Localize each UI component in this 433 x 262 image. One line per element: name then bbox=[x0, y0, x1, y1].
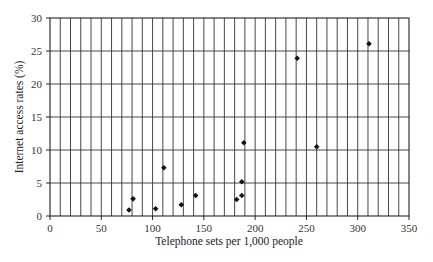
x-tick-label: 100 bbox=[144, 222, 161, 234]
y-tick-label: 10 bbox=[31, 144, 43, 156]
x-tick-label: 350 bbox=[401, 222, 418, 234]
data-point-marker bbox=[130, 196, 136, 202]
x-tick-label: 0 bbox=[47, 222, 53, 234]
grid-lines bbox=[50, 18, 409, 216]
data-point-marker bbox=[239, 193, 245, 199]
y-tick-label: 5 bbox=[37, 177, 43, 189]
x-tick-label: 150 bbox=[196, 222, 213, 234]
x-axis-ticks: 050100150200250300350 bbox=[47, 216, 418, 234]
x-tick-label: 300 bbox=[349, 222, 366, 234]
x-tick-label: 250 bbox=[298, 222, 315, 234]
y-tick-label: 15 bbox=[31, 111, 43, 123]
data-point-marker bbox=[314, 144, 320, 150]
y-axis-ticks: 051015202530 bbox=[31, 12, 50, 222]
y-axis-label: Internet access rates (%) bbox=[13, 60, 26, 173]
data-point-marker bbox=[241, 140, 247, 146]
y-tick-label: 0 bbox=[37, 210, 43, 222]
data-point-marker bbox=[294, 55, 300, 61]
data-point-marker bbox=[161, 165, 167, 171]
x-axis-label: Telephone sets per 1,000 people bbox=[155, 235, 303, 248]
x-tick-label: 200 bbox=[247, 222, 264, 234]
y-tick-label: 30 bbox=[31, 12, 43, 24]
x-tick-label: 50 bbox=[96, 222, 108, 234]
y-tick-label: 20 bbox=[31, 78, 43, 90]
scatter-chart: 050100150200250300350 051015202530 Telep… bbox=[0, 0, 433, 262]
data-point-marker bbox=[366, 41, 372, 47]
data-point-marker bbox=[126, 207, 132, 213]
y-tick-label: 25 bbox=[31, 45, 43, 57]
data-point-marker bbox=[153, 206, 159, 212]
data-point-marker bbox=[239, 179, 245, 185]
